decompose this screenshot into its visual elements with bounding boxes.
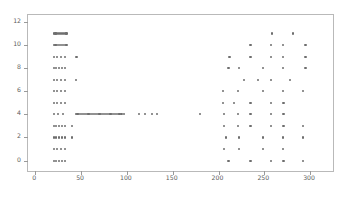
x-tick-label: 300	[303, 175, 315, 181]
data-point	[62, 113, 64, 115]
data-point	[156, 113, 158, 115]
data-point	[228, 56, 230, 58]
data-point	[60, 148, 62, 150]
data-point	[282, 136, 284, 138]
data-point	[282, 148, 284, 150]
data-point	[53, 102, 55, 104]
data-point	[282, 113, 284, 115]
y-axis-tick	[24, 161, 28, 162]
data-point	[270, 125, 272, 127]
data-point	[304, 56, 306, 58]
data-point	[249, 102, 251, 104]
data-point	[61, 67, 63, 69]
data-point	[58, 160, 60, 162]
y-axis-tick	[24, 91, 28, 92]
data-point	[56, 148, 58, 150]
data-point	[271, 32, 273, 34]
y-axis-tick	[24, 114, 28, 115]
data-point	[64, 90, 66, 92]
data-point	[75, 56, 77, 58]
data-point	[64, 79, 66, 81]
data-point	[270, 79, 272, 81]
x-tick-label: 100	[120, 175, 132, 181]
data-point	[58, 67, 60, 69]
x-tick-label: 0	[32, 175, 36, 181]
data-point	[249, 113, 251, 115]
data-point	[58, 136, 60, 138]
data-point	[222, 102, 224, 104]
y-tick-label: 10	[13, 41, 21, 47]
data-point	[53, 56, 55, 58]
data-point	[57, 113, 59, 115]
data-point	[64, 67, 66, 69]
data-point	[64, 56, 66, 58]
y-tick-label: 8	[17, 64, 21, 70]
data-point	[138, 113, 140, 115]
data-point	[53, 90, 55, 92]
x-tick-label: 50	[76, 175, 84, 181]
data-point	[71, 125, 73, 127]
data-point	[282, 56, 284, 58]
data-point	[262, 67, 264, 69]
data-point	[56, 102, 58, 104]
data-point	[222, 90, 224, 92]
data-point	[262, 90, 264, 92]
data-point	[282, 90, 284, 92]
data-point	[123, 113, 125, 115]
data-point	[225, 136, 227, 138]
data-point	[53, 79, 55, 81]
data-point	[249, 160, 251, 162]
y-axis-tick	[24, 68, 28, 69]
data-point	[53, 148, 55, 150]
data-point	[64, 125, 66, 127]
y-axis-labels: 024681012	[0, 14, 21, 172]
y-tick-label: 0	[17, 156, 21, 162]
x-tick-label: 150	[166, 175, 178, 181]
y-tick-label: 4	[17, 110, 21, 116]
data-point	[302, 136, 304, 138]
data-point	[58, 125, 60, 127]
data-point	[289, 79, 291, 81]
data-point	[270, 102, 272, 104]
data-point	[64, 102, 66, 104]
y-tick-label: 12	[13, 18, 21, 24]
x-axis-labels: 050100150200250300	[27, 175, 334, 187]
data-point	[60, 90, 62, 92]
data-point	[71, 136, 73, 138]
data-point	[237, 125, 239, 127]
data-point	[302, 160, 304, 162]
data-point	[64, 148, 66, 150]
data-point	[60, 56, 62, 58]
data-point	[227, 160, 229, 162]
y-axis-tick	[24, 22, 28, 23]
y-tick-label: 6	[17, 87, 21, 93]
data-point	[144, 113, 146, 115]
data-point	[270, 56, 272, 58]
data-point	[237, 90, 239, 92]
data-point	[302, 90, 304, 92]
data-point	[61, 160, 63, 162]
data-point	[304, 44, 306, 46]
y-axis-tick	[24, 137, 28, 138]
scatter-plot-figure: 024681012 050100150200250300	[0, 0, 351, 202]
data-point	[270, 44, 272, 46]
data-point	[233, 102, 235, 104]
data-point	[243, 79, 245, 81]
data-point	[61, 136, 63, 138]
data-points-layer	[28, 15, 333, 171]
data-point	[238, 67, 240, 69]
data-point	[75, 79, 77, 81]
data-point	[292, 32, 294, 34]
data-point	[262, 136, 264, 138]
data-point	[249, 125, 251, 127]
data-point	[262, 148, 264, 150]
data-point	[282, 44, 284, 46]
y-axis-tick	[24, 45, 28, 46]
data-point	[270, 113, 272, 115]
data-point	[53, 113, 55, 115]
data-point	[56, 79, 58, 81]
y-tick-label: 2	[17, 133, 21, 139]
data-point	[223, 125, 225, 127]
data-point	[238, 136, 240, 138]
x-tick-label: 250	[257, 175, 269, 181]
